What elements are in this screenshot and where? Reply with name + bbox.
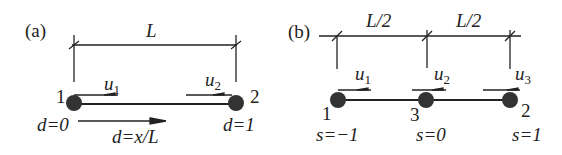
arrowhead-u1-b <box>357 88 368 90</box>
node-number-2-a: 2 <box>250 86 260 107</box>
dof-label-u1-b: u1 <box>355 63 371 87</box>
node-number-2-b: 2 <box>521 100 531 121</box>
panel-a-labels: (a) L 1 2 u1 u2 d=0 d=1 d=x/L <box>25 20 260 147</box>
node-1-b <box>330 92 346 108</box>
length-label-right-b: L/2 <box>455 10 482 31</box>
coord-label-mid-b: s=0 <box>416 124 446 145</box>
arrowhead-u2-a <box>213 93 224 95</box>
node-2-a <box>228 95 244 111</box>
panel-label-a: (a) <box>25 20 46 42</box>
node-3-b <box>418 92 434 108</box>
dof-label-u1-a: u1 <box>104 73 120 97</box>
panel-label-b: (b) <box>288 21 310 43</box>
dof-label-u2-b: u2 <box>434 63 450 87</box>
coord-label-left-b: s=−1 <box>316 124 359 145</box>
arrowhead-coord-a <box>150 118 166 124</box>
coord-formula-a: d=x/L <box>112 126 159 147</box>
dof-label-u2-a: u2 <box>205 69 221 93</box>
diagram-canvas: (a) L 1 2 u1 u2 d=0 d=1 d=x/L (b) L/2 L/… <box>0 0 562 155</box>
coord-label-right-a: d=1 <box>223 114 255 135</box>
panel-b-labels: (b) L/2 L/2 1 3 2 u1 u2 u3 s=−1 s=0 s=1 <box>288 10 542 145</box>
length-label-left-b: L/2 <box>365 10 392 31</box>
coord-label-right-b: s=1 <box>512 124 542 145</box>
arrowhead-u3-b <box>507 88 518 90</box>
coord-label-left-a: d=0 <box>37 114 69 135</box>
dof-label-u3-b: u3 <box>515 63 531 87</box>
node-2-b <box>502 92 518 108</box>
node-number-1-b: 1 <box>322 103 332 124</box>
node-1-a <box>66 95 82 111</box>
arrowhead-u2-b <box>432 88 443 90</box>
panel-b <box>319 30 521 108</box>
node-number-1-a: 1 <box>56 86 66 107</box>
length-label-a: L <box>145 20 157 41</box>
node-number-3-b: 3 <box>410 104 420 125</box>
